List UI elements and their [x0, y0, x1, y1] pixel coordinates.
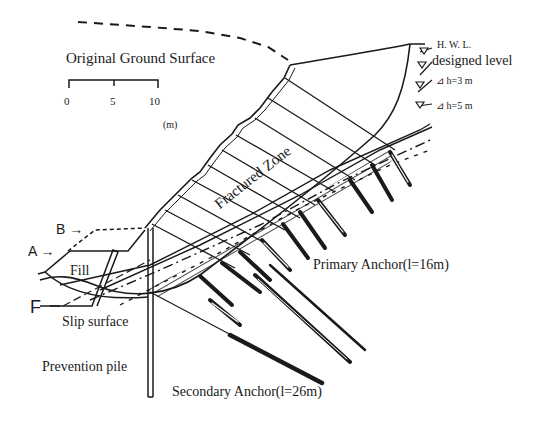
- primary-anchor-label: Primary Anchor(l=16m): [313, 258, 449, 272]
- water-level-lines: [60, 124, 432, 305]
- h3-label: ⊿ h=3 m: [436, 76, 472, 86]
- secondary-anchor-label: Secondary Anchor(l=26m): [172, 385, 322, 399]
- top-ground-line: [290, 44, 425, 65]
- scale-unit: (m): [163, 120, 177, 130]
- level-leaders: [418, 48, 432, 106]
- prevention-pile-label: Prevention pile: [42, 360, 127, 374]
- original-ground-surface-label: Original Ground Surface: [66, 51, 215, 66]
- h5-label: ⊿ h=5 m: [436, 101, 472, 111]
- fill-embankment: [38, 230, 148, 306]
- designed-level-label: designed level: [432, 54, 512, 68]
- scale-tick-5: 5: [110, 96, 116, 107]
- hwl-label: H. W. L.: [437, 40, 471, 50]
- prevention-pile: [148, 228, 153, 397]
- marker-a: A →: [28, 244, 54, 258]
- marker-b: B →: [56, 222, 83, 236]
- marker-f: F: [30, 298, 41, 316]
- slip-surface-label: Slip surface: [62, 315, 128, 329]
- fill-label: Fill: [70, 264, 89, 278]
- scale-tick-0: 0: [64, 96, 70, 107]
- scale-tick-10: 10: [149, 96, 160, 107]
- scale-bar: [69, 80, 158, 88]
- water-level-symbols: [416, 48, 428, 108]
